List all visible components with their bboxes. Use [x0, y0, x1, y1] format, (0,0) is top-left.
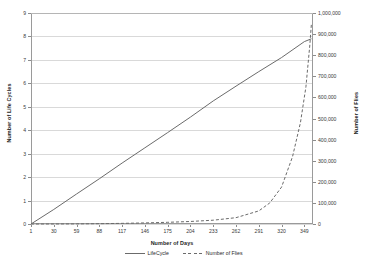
series-line [31, 39, 311, 224]
y-right-tick-label: 600,000 [318, 94, 352, 100]
y-right-tick-mark [313, 97, 316, 98]
legend-entry[interactable]: Number of Flies [183, 250, 243, 256]
series-line [31, 24, 311, 224]
y-left-tick-label: 0 [8, 221, 26, 227]
solid-line-icon [125, 251, 145, 256]
y-right-tick-label: 700,000 [318, 73, 352, 79]
y-right-tick-mark [313, 182, 316, 183]
plot-area [31, 13, 313, 224]
y-right-tick-label: 200,000 [318, 179, 352, 185]
chart-legend: LifeCycleNumber of Flies [0, 250, 367, 256]
y-right-tick-mark [313, 119, 316, 120]
dashed-line-icon [183, 251, 203, 256]
y-left-tick-label: 9 [8, 10, 26, 16]
y-left-tick-label: 6 [8, 80, 26, 86]
y-right-axis-title: Number of Flies [353, 73, 359, 153]
y-right-tick-label: 1,000,000 [318, 10, 352, 16]
y-left-tick-label: 5 [8, 104, 26, 110]
chart-container: Number of Life Cycles Number of Flies Nu… [0, 0, 367, 263]
x-tick-label: 349 [291, 228, 317, 234]
y-right-tick-label: 300,000 [318, 158, 352, 164]
y-right-tick-label: 500,000 [318, 116, 352, 122]
y-right-tick-mark [313, 203, 316, 204]
y-right-tick-label: 100,000 [318, 200, 352, 206]
y-right-tick-mark [313, 161, 316, 162]
y-right-tick-mark [313, 34, 316, 35]
y-right-tick-mark [313, 224, 316, 225]
y-right-tick-label: 900,000 [318, 31, 352, 37]
y-right-tick-mark [313, 55, 316, 56]
y-left-tick-label: 8 [8, 33, 26, 39]
y-right-tick-mark [313, 76, 316, 77]
y-left-tick-label: 3 [8, 151, 26, 157]
y-right-tick-mark [313, 140, 316, 141]
y-right-tick-label: 0 [318, 221, 352, 227]
legend-label: LifeCycle [148, 250, 169, 256]
x-axis-title: Number of Days [31, 240, 313, 246]
legend-entry[interactable]: LifeCycle [125, 250, 169, 256]
legend-label: Number of Flies [206, 250, 243, 256]
y-right-tick-label: 800,000 [318, 52, 352, 58]
y-left-tick-label: 1 [8, 198, 26, 204]
y-left-tick-label: 4 [8, 127, 26, 133]
y-left-tick-label: 7 [8, 57, 26, 63]
y-left-tick-label: 2 [8, 174, 26, 180]
y-right-tick-mark [313, 13, 316, 14]
series-lines [31, 13, 313, 224]
y-right-tick-label: 400,000 [318, 137, 352, 143]
